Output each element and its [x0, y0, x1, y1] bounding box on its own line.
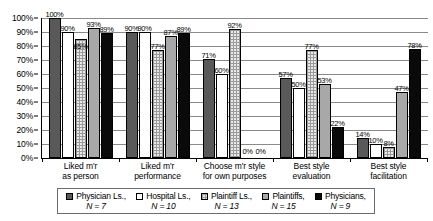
- y-axis-tick-label: 50%: [17, 83, 33, 93]
- y-axis-tick-label: 60%: [17, 69, 33, 79]
- legend-series-name: Hospital Ls.,: [146, 191, 190, 201]
- legend-series-name: Plaintiffs,: [272, 191, 304, 201]
- bar-value-label: 85%: [73, 42, 87, 51]
- bar-slot: 47%: [396, 18, 408, 158]
- bar[interactable]: 78%: [409, 49, 421, 158]
- y-axis-tick-mark: [34, 158, 38, 159]
- bar[interactable]: 8%: [383, 147, 395, 158]
- bar[interactable]: 100%: [49, 18, 61, 158]
- legend-item[interactable]: Plaintiff Ls.,N = 13: [201, 191, 252, 211]
- legend-series-count: N = 9: [331, 201, 351, 211]
- bar-value-label: 71%: [201, 51, 215, 60]
- bar[interactable]: 92%: [229, 29, 241, 158]
- bar-value-label: 0%: [242, 147, 252, 156]
- bar-value-label: 87%: [163, 28, 177, 37]
- category-label-line: Best style: [273, 161, 350, 171]
- category-label: Liked m'ras person: [42, 161, 119, 181]
- y-axis-tick-mark: [34, 88, 38, 89]
- bar[interactable]: 14%: [357, 138, 369, 158]
- bar-slot: 78%: [409, 18, 421, 158]
- bar-slot: 89%: [178, 18, 190, 158]
- bar[interactable]: 60%: [216, 74, 228, 158]
- category-label-line: as person: [42, 171, 119, 181]
- category-label-line: performance: [119, 171, 196, 181]
- legend-item[interactable]: Hospital Ls.,N = 10: [136, 191, 190, 211]
- legend-series-name: Physician Ls.,: [76, 191, 126, 201]
- bar-slot: 89%: [101, 18, 113, 158]
- bar[interactable]: 90%: [139, 32, 151, 158]
- bar[interactable]: 87%: [165, 36, 177, 158]
- category-label-line: for own purposes: [196, 171, 273, 181]
- y-axis-tick-label: 70%: [17, 55, 33, 65]
- bar[interactable]: 50%: [293, 88, 305, 158]
- bar-group: 90%90%77%87%89%: [119, 18, 196, 158]
- bar[interactable]: 93%: [88, 28, 100, 158]
- bar-value-label: 50%: [291, 80, 305, 89]
- legend-item[interactable]: Plaintiffs,N = 15: [262, 191, 304, 211]
- bar-value-label: 89%: [99, 25, 113, 34]
- bar[interactable]: 22%: [332, 127, 344, 158]
- bar[interactable]: 53%: [319, 84, 331, 158]
- bar-value-label: 90%: [124, 24, 138, 33]
- bar[interactable]: 90%: [126, 32, 138, 158]
- bar[interactable]: 85%: [75, 39, 87, 158]
- bar[interactable]: 10%: [370, 144, 382, 158]
- bar-slot: 0%: [242, 18, 254, 158]
- legend-swatch-icon: [262, 193, 269, 200]
- bar-value-label: 92%: [227, 21, 241, 30]
- y-axis-tick-mark: [34, 18, 38, 19]
- bar-slot: 0%: [255, 18, 267, 158]
- bar-group: 100%90%85%93%89%: [42, 18, 119, 158]
- x-axis-tick-mark: [427, 158, 428, 162]
- category-label: Best styleevaluation: [273, 161, 350, 181]
- category-label: Liked m'rperformance: [119, 161, 196, 181]
- y-axis-tick-mark: [34, 102, 38, 103]
- legend-series-count: N = 10: [151, 201, 175, 211]
- category-label-line: facilitation: [350, 171, 427, 181]
- bar-slot: 57%: [280, 18, 292, 158]
- bar[interactable]: 77%: [152, 50, 164, 158]
- bar[interactable]: 57%: [280, 78, 292, 158]
- bar-value-label: 0%: [255, 147, 265, 156]
- legend-series-count: N = 15: [271, 201, 295, 211]
- category-label: Choose m'r stylefor own purposes: [196, 161, 273, 181]
- y-axis-tick-label: 90%: [17, 27, 33, 37]
- bar-groups: 100%90%85%93%89%90%90%77%87%89%71%60%92%…: [42, 18, 427, 158]
- grouped-bar-chart: 100%90%80%70%60%50%40%30%20%10%0% 100%90…: [0, 0, 433, 221]
- bar-slot: 93%: [88, 18, 100, 158]
- category-labels: Liked m'ras personLiked m'rperformanceCh…: [42, 161, 427, 181]
- bar-value-label: 77%: [150, 42, 164, 51]
- bar-value-label: 10%: [368, 136, 382, 145]
- bar[interactable]: 77%: [306, 50, 318, 158]
- bar[interactable]: 90%: [62, 32, 74, 158]
- y-axis-tick-label: 30%: [17, 111, 33, 121]
- bar-slot: 87%: [165, 18, 177, 158]
- y-axis-tick-mark: [34, 130, 38, 131]
- y-axis-tick-mark: [34, 116, 38, 117]
- y-axis-tick-mark: [34, 46, 38, 47]
- y-axis-tick-label: 20%: [17, 125, 33, 135]
- bar-slot: 8%: [383, 18, 395, 158]
- bar[interactable]: 71%: [203, 59, 215, 158]
- bar-slot: 53%: [319, 18, 331, 158]
- bar[interactable]: 89%: [101, 33, 113, 158]
- category-label: Best stylefacilitation: [350, 161, 427, 181]
- bar-slot: 60%: [216, 18, 228, 158]
- y-axis-tick-label: 0%: [21, 153, 33, 163]
- legend-item-header: Physician Ls.,: [66, 191, 126, 201]
- legend-item[interactable]: Physicians,N = 9: [315, 191, 366, 211]
- legend-item[interactable]: Physician Ls.,N = 7: [66, 191, 126, 211]
- bar-value-label: 47%: [394, 84, 408, 93]
- bar[interactable]: 47%: [396, 92, 408, 158]
- legend-series-count: N = 7: [86, 201, 106, 211]
- bar-group: 71%60%92%0%0%: [196, 18, 273, 158]
- bar-slot: 90%: [139, 18, 151, 158]
- y-axis-tick-mark: [34, 60, 38, 61]
- bar-slot: 92%: [229, 18, 241, 158]
- y-axis-tick-label: 100%: [12, 13, 33, 23]
- category-label-line: Liked m'r: [119, 161, 196, 171]
- legend-item-header: Plaintiffs,: [262, 191, 304, 201]
- bar-slot: 71%: [203, 18, 215, 158]
- category-label-line: Liked m'r: [42, 161, 119, 171]
- bar[interactable]: 89%: [178, 33, 190, 158]
